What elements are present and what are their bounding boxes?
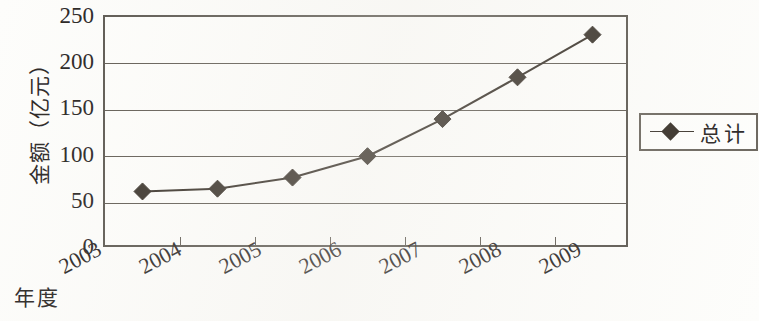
chart-figure: 金额（亿元） 250 200 150 100 50 0 2003 2004 20… <box>0 0 759 321</box>
y-tick-label: 250 <box>34 4 94 27</box>
series-markers <box>134 26 601 200</box>
data-point-marker <box>284 169 301 186</box>
data-point-marker <box>434 111 451 128</box>
y-tick-label: 150 <box>34 96 94 119</box>
diamond-marker-icon <box>650 123 694 141</box>
data-point-marker <box>584 26 601 43</box>
chart-legend: 总计 <box>639 113 758 151</box>
data-point-marker <box>359 148 376 165</box>
y-tick-label: 200 <box>34 50 94 73</box>
plot-area <box>103 15 628 247</box>
x-axis-title: 年度 <box>14 281 60 311</box>
y-tick-label: 50 <box>34 189 94 212</box>
data-point-marker <box>509 69 526 86</box>
data-point-marker <box>134 183 151 200</box>
data-point-marker <box>209 180 226 197</box>
legend-entry-label: 总计 <box>700 117 748 147</box>
y-tick-label: 100 <box>34 143 94 166</box>
data-series-total <box>105 17 630 249</box>
series-line <box>143 35 593 192</box>
